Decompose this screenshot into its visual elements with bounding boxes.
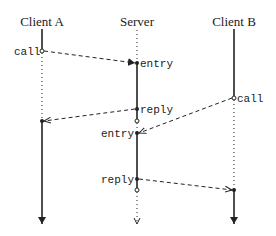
- event-label-server-entry-2: entry: [101, 128, 134, 140]
- event-label-server-entry-1: entry: [140, 58, 173, 70]
- sequence-diagram: Client A Server Client B call: [0, 0, 276, 236]
- event-label-a-call: call: [14, 46, 40, 58]
- message-reply-server-to-b: [139, 179, 232, 190]
- participant-label-server: Server: [120, 14, 155, 29]
- event-label-server-reply-1: reply: [140, 104, 173, 116]
- event-label-b-call: call: [237, 93, 263, 105]
- event-label-server-reply-2: reply: [101, 174, 134, 186]
- lifeline-client-a: [40, 29, 44, 224]
- participant-label-client-a: Client A: [20, 14, 64, 29]
- participant-label-client-b: Client B: [212, 14, 256, 29]
- message-reply-server-to-a: [44, 109, 135, 121]
- lifeline-client-b: [232, 29, 236, 224]
- message-call-a-to-server: [44, 51, 135, 63]
